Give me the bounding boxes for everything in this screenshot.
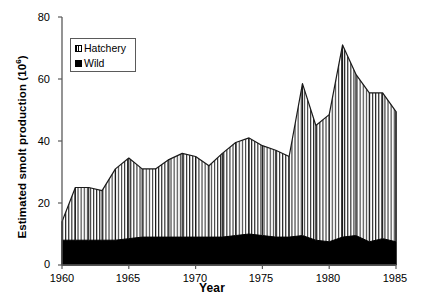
x-tick-label-1985: 1985 [374,272,416,284]
legend-item-hatchery: Hatchery [75,42,126,54]
y-tick-label-40: 40 [26,135,50,147]
y-axis-title-exponent: 6 [14,59,23,64]
filled-square-icon [75,60,82,67]
x-tick-label-1965: 1965 [107,272,149,284]
legend: Hatchery Wild [70,38,136,72]
legend-label-hatchery: Hatchery [84,42,126,54]
legend-label-wild: Wild [84,57,104,69]
x-tick-label-1980: 1980 [307,272,349,284]
legend-item-wild: Wild [75,57,104,69]
x-tick-label-1975: 1975 [240,272,282,284]
y-axis-title-text: Estimated smolt production (10 [16,64,28,239]
x-tick-label-1970: 1970 [174,272,216,284]
y-tick-label-80: 80 [26,11,50,23]
x-tick-label-1960: 1960 [41,272,83,284]
y-tick-label-0: 0 [26,258,50,270]
hatched-square-icon [75,45,82,52]
area-hatchery [62,45,396,265]
y-axis-title-paren: ) [16,55,28,59]
y-tick-label-20: 20 [26,197,50,209]
plot-area [0,0,424,302]
chart-figure: Estimated smolt production (106) Year 80… [0,0,424,302]
y-tick-label-60: 60 [26,73,50,85]
